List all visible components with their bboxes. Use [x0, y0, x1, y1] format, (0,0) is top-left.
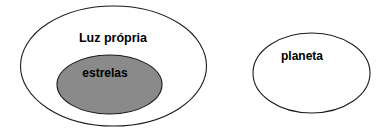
venn-diagram-svg: Luz própria estrelas planeta [0, 0, 390, 133]
set-ellipse-estrelas [57, 55, 162, 114]
set-label-luz-propria: Luz própria [79, 31, 148, 45]
set-ellipse-planeta [253, 33, 370, 113]
venn-diagram-canvas: Luz própria estrelas planeta [0, 0, 390, 133]
set-label-estrelas: estrelas [82, 66, 128, 80]
set-label-planeta: planeta [281, 49, 323, 63]
